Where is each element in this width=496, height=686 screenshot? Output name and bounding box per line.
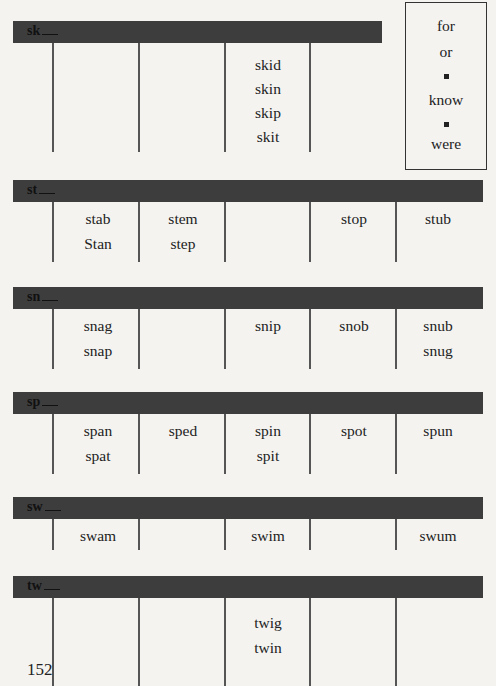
sight-word: for <box>406 17 486 35</box>
blank-line <box>39 193 55 194</box>
word-spat: spat <box>58 447 138 465</box>
column-divider <box>309 43 311 152</box>
word-snub: snub <box>398 317 478 335</box>
section-header-sw: sw <box>13 497 483 519</box>
word-spot: spot <box>314 422 394 440</box>
word-skit: skit <box>228 128 308 146</box>
sight-word: or <box>406 43 486 61</box>
word-swam: swam <box>58 527 138 545</box>
word-stan: Stan <box>58 235 138 253</box>
word-spin: spin <box>228 422 308 440</box>
word-stem: stem <box>143 210 223 228</box>
column-divider <box>395 519 397 550</box>
column-divider <box>309 598 311 686</box>
column-divider <box>309 202 311 262</box>
word-stub: stub <box>398 210 478 228</box>
word-spit: spit <box>228 447 308 465</box>
column-divider <box>138 598 140 686</box>
column-divider <box>138 202 140 262</box>
word-step: step <box>143 235 223 253</box>
word-span: span <box>58 422 138 440</box>
column-divider <box>395 414 397 474</box>
section-header-sk: sk <box>13 21 382 43</box>
sight-words-box: for or know were <box>405 2 487 170</box>
blank-line <box>42 405 58 406</box>
column-divider <box>138 519 140 550</box>
section-header-tw: tw <box>13 576 483 598</box>
page-number: 152 <box>27 660 53 680</box>
blank-line <box>44 589 60 590</box>
blank-line <box>42 300 58 301</box>
sight-word: know <box>406 91 486 109</box>
column-divider <box>52 414 54 474</box>
column-divider <box>52 519 54 550</box>
column-divider <box>224 309 226 369</box>
word-snob: snob <box>314 317 394 335</box>
column-divider <box>395 598 397 686</box>
blend-text: sk <box>27 23 40 38</box>
section-label: sp <box>27 394 58 410</box>
word-snip: snip <box>228 317 308 335</box>
column-divider <box>224 202 226 262</box>
column-divider <box>52 43 54 152</box>
word-twig: twig <box>228 614 308 632</box>
section-label: sw <box>27 499 61 515</box>
column-divider <box>52 309 54 369</box>
section-label: sk <box>27 23 58 39</box>
blank-line <box>45 510 61 511</box>
separator-square-icon <box>406 65 486 83</box>
word-snag: snag <box>58 317 138 335</box>
blend-text: tw <box>27 578 42 593</box>
column-divider <box>309 519 311 550</box>
word-skip: skip <box>228 104 308 122</box>
column-divider <box>395 309 397 369</box>
word-sped: sped <box>143 422 223 440</box>
section-label: sn <box>27 289 58 305</box>
blend-text: sp <box>27 394 40 409</box>
column-divider <box>224 598 226 686</box>
column-divider <box>138 309 140 369</box>
blend-text: st <box>27 182 37 197</box>
word-twin: twin <box>228 639 308 657</box>
column-divider <box>224 43 226 152</box>
word-snap: snap <box>58 342 138 360</box>
column-divider <box>52 202 54 262</box>
blend-text: sn <box>27 289 40 304</box>
word-spun: spun <box>398 422 478 440</box>
sight-word: were <box>406 135 486 153</box>
word-swim: swim <box>228 527 308 545</box>
section-header-sp: sp <box>13 392 483 414</box>
word-stab: stab <box>58 210 138 228</box>
section-header-st: st <box>13 180 483 202</box>
column-divider <box>309 309 311 369</box>
column-divider <box>395 202 397 262</box>
word-stop: stop <box>314 210 394 228</box>
section-header-sn: sn <box>13 287 483 309</box>
word-skid: skid <box>228 56 308 74</box>
word-swum: swum <box>398 527 478 545</box>
word-skin: skin <box>228 80 308 98</box>
blank-line <box>42 34 58 35</box>
blend-text: sw <box>27 499 43 514</box>
column-divider <box>138 43 140 152</box>
section-label: tw <box>27 578 60 594</box>
column-divider <box>224 519 226 550</box>
column-divider <box>224 414 226 474</box>
column-divider <box>309 414 311 474</box>
word-snug: snug <box>398 342 478 360</box>
separator-square-icon <box>406 113 486 131</box>
section-label: st <box>27 182 55 198</box>
column-divider <box>138 414 140 474</box>
